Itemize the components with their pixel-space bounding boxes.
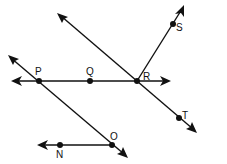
- ray-rs: [137, 5, 184, 81]
- line-po: [8, 55, 128, 158]
- label-n: N: [56, 149, 63, 160]
- point-n: [57, 142, 63, 148]
- point-p: [36, 78, 42, 84]
- label-s: S: [176, 22, 183, 33]
- geometry-diagram: P Q R S T O N: [0, 0, 227, 164]
- ray-on: [37, 140, 112, 150]
- label-t: T: [182, 110, 188, 121]
- point-q: [87, 78, 93, 84]
- label-p: P: [35, 66, 42, 77]
- label-o: O: [110, 131, 118, 142]
- arrowhead-up-icon: [175, 5, 184, 17]
- label-r: R: [143, 71, 150, 82]
- point-r: [134, 78, 140, 84]
- point-o: [109, 142, 115, 148]
- label-q: Q: [86, 66, 94, 77]
